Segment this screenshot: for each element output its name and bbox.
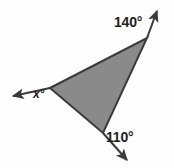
triangle-diagram-svg [0,0,174,168]
ray-left [13,88,50,96]
geometry-figure: 140° 110° x° [0,0,174,168]
angle-label-top: 140° [114,15,142,29]
triangle-shape [50,38,147,133]
angle-label-bottom: 110° [106,130,133,144]
ray-upper-right [147,11,157,38]
angle-label-unknown: x° [33,88,44,100]
